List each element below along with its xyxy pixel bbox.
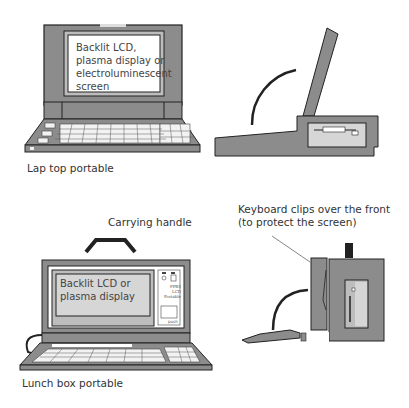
laptop-screen-text: Backlit LCD, plasma display or electrolu… [76, 41, 172, 93]
laptop-caption: Lap top portable [27, 162, 114, 175]
screen-line: Backlit LCD, [76, 41, 172, 54]
keyboard-clip-note: Keyboard clips over the front (to protec… [238, 203, 390, 229]
screen-line: screen [76, 80, 172, 93]
panel-line: Portable [159, 294, 181, 299]
laptop-side-view [215, 28, 378, 156]
screen-line: plasma display or [76, 54, 172, 67]
screen-line: electroluminescent [76, 67, 172, 80]
note-line: Keyboard clips over the front [238, 203, 390, 216]
side-panel-text: PPBS LCD Portable [159, 284, 181, 299]
screen-line: Backlit LCD or [60, 277, 135, 290]
side-panel-push: push [168, 319, 178, 324]
carrying-handle-label: Carrying handle [108, 216, 192, 229]
note-line: (to protect the screen) [238, 216, 390, 229]
screen-line: plasma display [60, 290, 135, 303]
lunchbox-caption: Lunch box portable [22, 377, 123, 390]
lunchbox-portable [20, 240, 212, 370]
lunchbox-screen-text: Backlit LCD or plasma display [60, 277, 135, 303]
lunchbox-side-view [242, 236, 384, 343]
